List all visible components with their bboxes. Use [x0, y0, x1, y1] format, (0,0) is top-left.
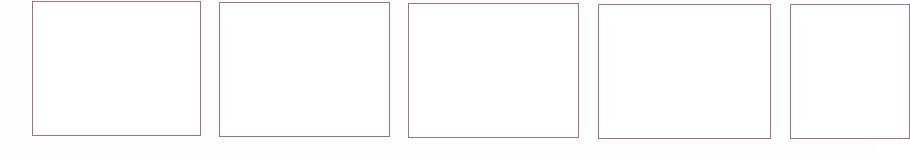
blank-panel-4: [598, 4, 771, 139]
blank-panel-1: [32, 1, 201, 136]
blank-panel-2: [219, 2, 390, 137]
blank-panel-3: [408, 3, 579, 138]
blank-panel-5: [790, 4, 910, 139]
